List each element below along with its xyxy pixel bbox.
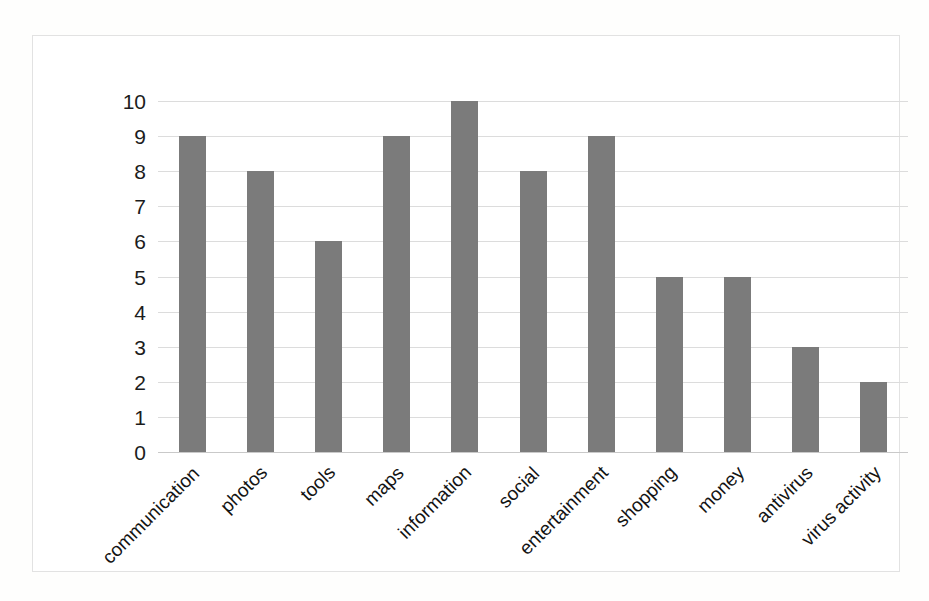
x-axis-label-shopping: shopping xyxy=(611,462,681,532)
bar-tools xyxy=(315,241,342,452)
bar-virus-activity xyxy=(860,382,887,452)
bar-money xyxy=(724,277,751,453)
x-axis-label-social: social xyxy=(494,462,544,512)
page-background: 109876543210 communicationphotostoolsmap… xyxy=(0,0,929,601)
x-axis-label-information: information xyxy=(394,462,476,544)
x-axis-label-tools: tools xyxy=(296,462,340,506)
x-axis-label-communication: communication xyxy=(98,462,204,568)
x-axis-labels: communicationphotostoolsmapsinformations… xyxy=(158,452,908,601)
plot-area xyxy=(158,101,908,452)
y-tick-label-4: 4 xyxy=(100,301,146,322)
bar-information xyxy=(451,101,478,452)
bar-communication xyxy=(179,136,206,452)
y-tick-label-6: 6 xyxy=(100,231,146,252)
x-axis-label-money: money xyxy=(693,462,749,518)
x-axis-label-antivirus: antivirus xyxy=(752,462,818,528)
y-tick-label-9: 9 xyxy=(100,126,146,147)
y-tick-label-2: 2 xyxy=(100,371,146,392)
bar-social xyxy=(520,171,547,452)
y-tick-label-3: 3 xyxy=(100,336,146,357)
y-tick-label-1: 1 xyxy=(100,406,146,427)
bar-shopping xyxy=(656,277,683,453)
bar-maps xyxy=(383,136,410,452)
bar-entertainment xyxy=(588,136,615,452)
x-axis-label-photos: photos xyxy=(216,462,272,518)
y-axis: 109876543210 xyxy=(90,101,146,452)
chart-frame: 109876543210 communicationphotostoolsmap… xyxy=(32,35,900,572)
x-axis-label-maps: maps xyxy=(360,462,408,510)
y-tick-label-5: 5 xyxy=(100,266,146,287)
y-tick-label-8: 8 xyxy=(100,161,146,182)
y-tick-label-7: 7 xyxy=(100,196,146,217)
y-tick-label-0: 0 xyxy=(100,442,146,463)
bar-photos xyxy=(247,171,274,452)
y-tick-label-10: 10 xyxy=(100,91,146,112)
bar-antivirus xyxy=(792,347,819,452)
